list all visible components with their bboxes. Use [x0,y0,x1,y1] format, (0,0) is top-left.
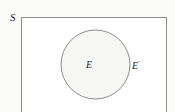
venn-diagram-figure: S E E′ [0,0,175,112]
universal-set-label: S [10,12,16,23]
event-set-circle [61,30,130,99]
complement-set-label: E′ [132,60,140,71]
event-set-label: E [86,60,92,70]
complement-set-prime-mark: ′ [138,59,140,67]
venn-diagram-canvas [0,0,175,112]
